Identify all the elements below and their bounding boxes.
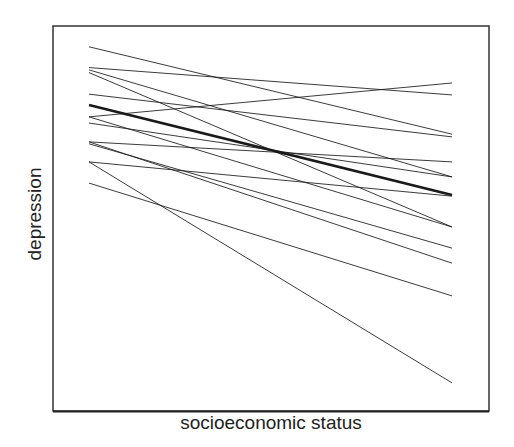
series-line-line-10 [89, 142, 452, 162]
series-line-line-14 [89, 162, 452, 383]
series-line-line-13 [89, 162, 452, 196]
series-line-line-5 [89, 94, 452, 137]
x-axis-label: socioeconomic status [53, 412, 489, 434]
series-line-line-8 [89, 117, 452, 227]
y-axis-label: depression [24, 149, 46, 279]
series-line-line-3 [89, 70, 452, 177]
series-line-line-7 [89, 83, 452, 117]
series-line-line-15 [89, 183, 452, 296]
series-line-line-9 [89, 123, 452, 177]
series-line-line-11 [89, 142, 452, 263]
chart-canvas [0, 0, 514, 447]
series-line-line-12 [89, 144, 452, 248]
regression-lines [89, 47, 452, 383]
